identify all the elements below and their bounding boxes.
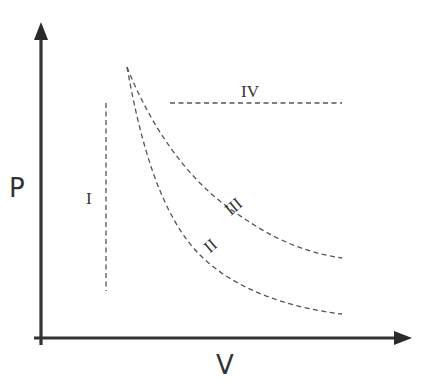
process-i-label: I [86, 189, 92, 208]
process-ii-label: II [200, 235, 221, 257]
y-axis [34, 22, 48, 345]
process-ii-curve [127, 67, 342, 314]
x-axis [34, 331, 412, 345]
x-axis-arrow-icon [394, 331, 412, 345]
process-iv-label: IV [241, 82, 260, 101]
process-iii-curve [127, 67, 342, 258]
y-axis-label: P [9, 173, 25, 203]
pv-diagram: P V I II III IV [0, 0, 428, 390]
y-axis-arrow-icon [34, 22, 48, 40]
x-axis-label: V [216, 350, 234, 380]
process-iii-label: III [221, 194, 246, 220]
